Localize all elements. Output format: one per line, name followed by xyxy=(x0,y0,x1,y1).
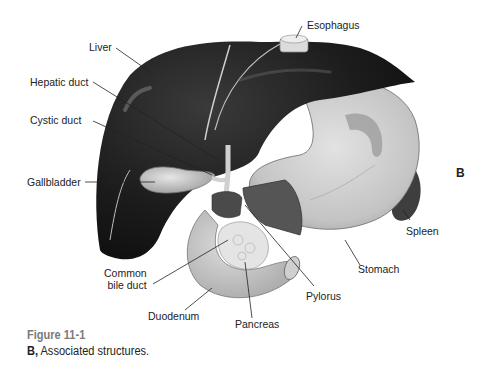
caption-title: Figure 11-1 xyxy=(27,328,85,342)
label-gallbladder: Gallbladder xyxy=(27,176,81,188)
label-duodenum: Duodenum xyxy=(148,310,199,322)
label-stomach: Stomach xyxy=(358,263,399,275)
label-pylorus: Pylorus xyxy=(306,290,341,302)
label-spleen: Spleen xyxy=(406,225,439,237)
label-cystic-duct: Cystic duct xyxy=(30,114,81,126)
caption-prefix: B, xyxy=(27,344,38,358)
label-hepatic-duct: Hepatic duct xyxy=(30,76,88,88)
label-pancreas: Pancreas xyxy=(235,318,279,330)
label-liver: Liver xyxy=(89,41,112,53)
label-common-bile-duct-line2: bile duct xyxy=(107,279,147,291)
label-esophagus: Esophagus xyxy=(307,19,360,31)
caption-body: Associated structures. xyxy=(38,344,149,358)
label-common-bile-duct: Common bile duct xyxy=(104,267,147,291)
panel-letter: B xyxy=(456,166,465,180)
esophagus-shape xyxy=(280,35,308,52)
pancreas-shape xyxy=(218,222,268,269)
caption-text: B, Associated structures. xyxy=(27,344,149,358)
label-common-bile-duct-line1: Common xyxy=(104,267,147,279)
